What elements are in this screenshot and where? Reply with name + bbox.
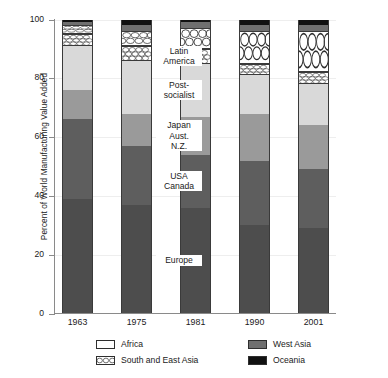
legend-swatch-oceania: [248, 356, 267, 365]
x-tick-label-1975: 1975: [107, 317, 167, 327]
bar-1975: [121, 20, 152, 314]
bar-segment-latin-america: [121, 46, 152, 61]
bar-segment-oceania: [62, 20, 93, 23]
bar-segment-latin-america: [298, 72, 329, 84]
y-axis-title: Percent of World Manufacturing Value Add…: [40, 27, 49, 287]
legend-label-west-asia: West Asia: [273, 338, 311, 351]
bar-segment-europe: [121, 205, 152, 314]
bar-segment-usa-canada: [62, 119, 93, 198]
y-tick-label: 20: [34, 249, 44, 259]
bar-2001: [298, 20, 329, 314]
bar-segment-japan-aust-n-z: [239, 114, 270, 161]
bar-segment-usa-canada: [298, 169, 329, 228]
bar-1990: [239, 20, 270, 314]
bar-segment-oceania: [121, 20, 152, 26]
bar-segment-usa-canada: [239, 161, 270, 226]
bar-segment-japan-aust-n-z: [298, 125, 329, 169]
bar-segment-japan-aust-n-z: [62, 90, 93, 119]
bar-segment-west-asia: [298, 25, 329, 31]
x-tick-label-1981: 1981: [166, 317, 226, 327]
bar-segment-europe: [62, 199, 93, 314]
bar-segment-latin-america: [62, 34, 93, 46]
bar-1963: [62, 20, 93, 314]
bar-segment-post-socialist: [121, 61, 152, 114]
annotation-japan-aust-nz: Japan Aust. N.Z.: [156, 120, 202, 151]
bar-segment-oceania: [298, 20, 329, 26]
bar-segment-europe: [298, 228, 329, 313]
stacked-bar-chart: Percent of World Manufacturing Value Add…: [0, 0, 388, 378]
bar-segment-post-socialist: [298, 84, 329, 125]
y-tick-label: 100: [30, 14, 44, 24]
x-tick-label-1990: 1990: [225, 317, 285, 327]
y-tick-label: 80: [34, 72, 44, 82]
bar-segment-latin-america: [239, 64, 270, 76]
annotation-usa-canada: USA Canada: [156, 171, 202, 191]
x-tick-label-2001: 2001: [284, 317, 344, 327]
bar-segment-usa-canada: [121, 146, 152, 205]
legend-label-oceania: Oceania: [273, 354, 305, 367]
y-tick-label: 40: [34, 190, 44, 200]
legend-swatch-africa: [96, 340, 115, 349]
bar-segment-west-asia: [62, 22, 93, 25]
bar-segment-japan-aust-n-z: [121, 114, 152, 146]
bar-segment-post-socialist: [62, 46, 93, 90]
annotation-europe: Europe: [156, 255, 202, 265]
bar-segment-west-asia: [121, 25, 152, 31]
bar-segment-south-and-east-asia: [239, 31, 270, 63]
legend-swatch-west-asia: [248, 340, 267, 349]
bar-segment-oceania: [239, 20, 270, 26]
bar-segment-post-socialist: [239, 75, 270, 113]
y-tick-label: 60: [34, 131, 44, 141]
legend-label-south-and-east-asia: South and East Asia: [121, 354, 198, 367]
bar-segment-south-and-east-asia: [121, 31, 152, 46]
y-axis-line: [54, 19, 55, 314]
legend-swatch-south-and-east-asia: [96, 356, 115, 365]
legend-label-africa: Africa: [121, 338, 143, 351]
chart-legend: AfricaWest AsiaSouth and East AsiaOceani…: [96, 338, 356, 372]
bar-segment-west-asia: [239, 25, 270, 31]
annotation-latin-america: Latin America: [156, 46, 202, 66]
bar-segment-south-and-east-asia: [298, 31, 329, 72]
x-tick-label-1963: 1963: [48, 317, 108, 327]
annotation-post-socialist: Post- socialist: [156, 80, 202, 100]
bar-segment-oceania: [180, 20, 211, 23]
y-tick-label: 0: [39, 308, 44, 318]
bar-segment-west-asia: [180, 22, 211, 28]
bar-segment-south-and-east-asia: [62, 25, 93, 34]
bar-segment-europe: [239, 225, 270, 313]
